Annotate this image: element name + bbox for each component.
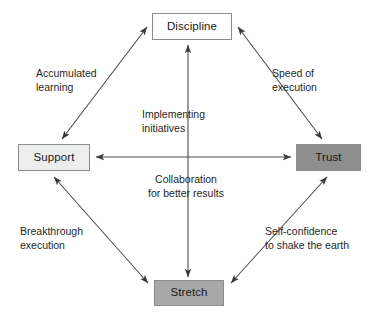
- edge-label-line: initiatives: [142, 121, 205, 135]
- edge-label-line: Accumulated: [36, 66, 97, 80]
- node-discipline-label: Discipline: [167, 21, 217, 33]
- node-trust[interactable]: Trust: [296, 144, 361, 171]
- edge-label-line: Breakthrough: [20, 224, 83, 238]
- edge-label-line: execution: [272, 80, 317, 94]
- edge-label-line: Implementing: [142, 107, 205, 121]
- edge-label-accumulated-learning: Accumulated learning: [36, 66, 97, 94]
- edge-label-line: Collaboration: [118, 172, 254, 186]
- node-stretch-label: Stretch: [170, 287, 207, 299]
- edge-label-collaboration: Collaboration for better results: [118, 172, 254, 200]
- edge-label-line: to shake the earth: [265, 238, 349, 252]
- diagram-canvas: Discipline Support Trust Stretch Accumul…: [0, 0, 372, 321]
- edge-label-line: Self-confidence: [265, 224, 349, 238]
- edge-label-breakthrough-execution: Breakthrough execution: [20, 224, 83, 252]
- edge-label-implementing-initiatives: Implementing initiatives: [142, 107, 205, 135]
- edge-label-speed-of-execution: Speed of execution: [272, 66, 317, 94]
- edge-label-line: learning: [36, 80, 97, 94]
- edge-label-line: Speed of: [272, 66, 317, 80]
- node-support-label: Support: [34, 152, 75, 164]
- edge-label-self-confidence: Self-confidence to shake the earth: [265, 224, 349, 252]
- node-stretch[interactable]: Stretch: [154, 280, 224, 306]
- node-trust-label: Trust: [315, 152, 341, 164]
- edge-label-line: for better results: [118, 186, 254, 200]
- node-support[interactable]: Support: [18, 144, 90, 171]
- edge-label-line: execution: [20, 238, 83, 252]
- node-discipline[interactable]: Discipline: [152, 13, 232, 40]
